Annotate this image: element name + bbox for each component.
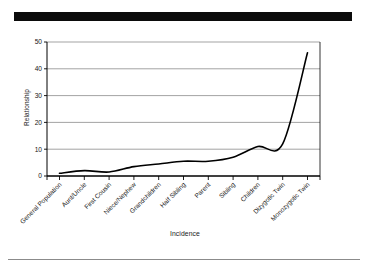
svg-text:10: 10 bbox=[35, 146, 43, 153]
svg-text:20: 20 bbox=[35, 119, 43, 126]
footer-rule bbox=[8, 259, 360, 260]
svg-text:50: 50 bbox=[35, 38, 43, 45]
svg-text:30: 30 bbox=[35, 92, 43, 99]
svg-text:Parent: Parent bbox=[193, 181, 212, 200]
y-axis-title: Relationship bbox=[23, 68, 30, 148]
redaction-bar bbox=[14, 12, 352, 21]
x-axis-title: Incidence bbox=[0, 230, 370, 237]
svg-text:0: 0 bbox=[38, 172, 42, 179]
chart-figure: Relationship Incidence 01020304050 Gener… bbox=[0, 30, 370, 258]
svg-text:Sibling: Sibling bbox=[218, 180, 238, 200]
svg-text:Children: Children bbox=[239, 180, 261, 202]
svg-text:Half Sibling: Half Sibling bbox=[159, 180, 188, 209]
x-axis-tick-labels: General PopulationAunt/UncleFirst Cousin… bbox=[18, 180, 311, 225]
x-axis-ticks bbox=[47, 176, 320, 180]
axis-lines bbox=[47, 42, 320, 176]
svg-text:40: 40 bbox=[35, 65, 43, 72]
grid-lines bbox=[47, 42, 320, 176]
data-series-line bbox=[60, 53, 308, 174]
svg-text:General Population: General Population bbox=[18, 180, 63, 225]
line-chart: 01020304050 General PopulationAunt/Uncle… bbox=[0, 30, 370, 258]
y-axis-ticks: 01020304050 bbox=[35, 38, 47, 179]
figure-page: Relationship Incidence 01020304050 Gener… bbox=[0, 0, 370, 269]
